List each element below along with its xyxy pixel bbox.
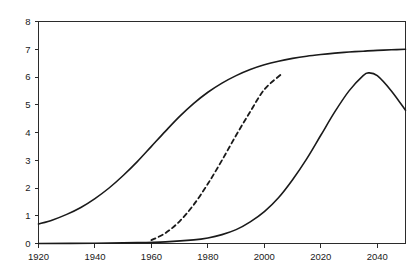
y-tick-label: 8 — [25, 16, 30, 27]
x-tick-label: 1960 — [141, 251, 162, 262]
chart-container: 012345678 1920194019601980200020202040 — [0, 0, 420, 278]
x-tick-label: 1980 — [197, 251, 218, 262]
x-tick-label: 1920 — [28, 251, 49, 262]
x-tick-label: 1940 — [84, 251, 105, 262]
line-chart: 012345678 1920194019601980200020202040 — [0, 0, 420, 278]
x-tick-label: 2000 — [254, 251, 275, 262]
y-tick-label: 7 — [25, 44, 30, 55]
y-tick-label: 2 — [25, 182, 30, 193]
y-axis-tick-labels: 012345678 — [25, 16, 30, 249]
y-tick-label: 6 — [25, 71, 30, 82]
y-tick-label: 3 — [25, 155, 30, 166]
x-tick-label: 2040 — [367, 251, 388, 262]
y-tick-label: 5 — [25, 99, 30, 110]
x-tick-label: 2020 — [310, 251, 331, 262]
y-tick-label: 0 — [25, 238, 30, 249]
y-tick-label: 4 — [25, 127, 30, 138]
chart-background — [0, 0, 420, 278]
y-tick-label: 1 — [25, 210, 30, 221]
